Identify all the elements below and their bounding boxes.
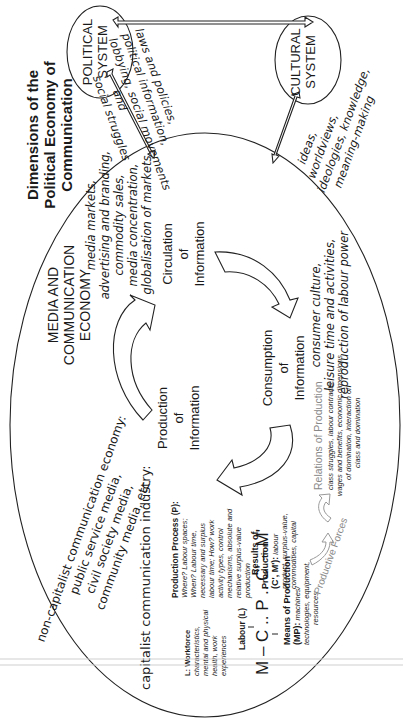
circulation-to-consumption-arrow (215, 252, 298, 318)
means-of-production-text: Means of Production(MP):machines/technol… (282, 556, 320, 645)
scan-artifact (0, 664, 403, 666)
circulation-label: CirculationofInformation (160, 221, 207, 286)
capitalist-industry-heading: capitalist communication industry: (138, 465, 153, 690)
circulation-details: media markets,advertising and branding,c… (84, 151, 154, 299)
consumption-to-production-arrow (217, 425, 293, 495)
consumption-details: consumer culture,leisure time and activi… (309, 230, 351, 399)
relations-of-production-text: Relations of Productionclass struggles, … (312, 355, 362, 496)
consumption-label: ConsumptionofInformation (260, 330, 307, 407)
production-to-circulation-arrow (113, 295, 155, 420)
svg-text:Dimensions of thePolitical Eco: Dimensions of thePolitical Economy ofCom… (24, 60, 75, 209)
cultural-economy-double-arrow (272, 92, 300, 163)
svg-text:Labour (L): Labour (L) (237, 608, 247, 650)
political-system-label: POLITICALSYSTEM (80, 19, 110, 85)
scan-artifact (0, 658, 403, 660)
workforce-text: L: Workforcecharacteristics,mental and p… (183, 609, 228, 676)
svg-text:capitalist communication indus: capitalist communication industry: (138, 465, 153, 690)
labour-label: Labour (L) (237, 608, 247, 650)
svg-text:CULTURALSYSTEM: CULTURALSYSTEM (288, 28, 318, 96)
svg-text:POLITICALSYSTEM: POLITICALSYSTEM (80, 19, 110, 85)
svg-text:Means of Production(MP):machin: Means of Production(MP):machines/technol… (282, 556, 320, 645)
svg-text:ConsumptionofInformation: ConsumptionofInformation (260, 330, 307, 407)
svg-text:Production Process (P):Where?: Production Process (P):Where? Labour spa… (170, 501, 252, 599)
production-label: ProductionofInformation (155, 385, 202, 450)
political-cultural-double-arrow (113, 17, 313, 27)
political-economy-diagram: Dimensions of thePolitical Economy ofCom… (0, 0, 403, 718)
svg-text:media markets,advertising and: media markets,advertising and branding,c… (84, 151, 154, 299)
svg-text:consumer culture,leisure time: consumer culture,leisure time and activi… (309, 230, 351, 399)
svg-text:L: Workforcecharacteristics,me: L: Workforcecharacteristics,mental and p… (183, 609, 228, 676)
production-process-text: Production Process (P):Where? Labour spa… (170, 501, 252, 599)
svg-text:ProductionofInformation: ProductionofInformation (155, 385, 202, 450)
svg-text:Relations of Productionclass s: Relations of Productionclass struggles, … (312, 355, 362, 496)
svg-text:CirculationofInformation: CirculationofInformation (160, 221, 207, 286)
cultural-system-label: CULTURALSYSTEM (288, 28, 318, 96)
diagram-title: Dimensions of thePolitical Economy ofCom… (24, 60, 75, 209)
